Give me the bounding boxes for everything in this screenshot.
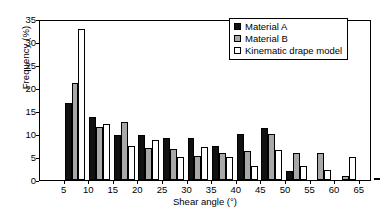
x-tick-label: 40 [224, 185, 248, 195]
bar [114, 135, 121, 180]
bar [163, 138, 170, 180]
bar [128, 146, 135, 180]
bar [349, 157, 356, 180]
bar [72, 83, 79, 180]
bar [293, 153, 300, 180]
bar [219, 153, 226, 180]
x-tick-label: 45 [248, 185, 272, 195]
legend-item: Material B [234, 34, 342, 44]
bar [96, 127, 103, 180]
bar [194, 156, 201, 180]
legend-label: Material A [245, 22, 287, 32]
x-tick-label: 15 [101, 185, 125, 195]
bar [65, 103, 72, 180]
bar [170, 149, 177, 180]
x-axis-label: Shear angle (°) [39, 196, 371, 207]
bar [138, 135, 145, 180]
bar [268, 134, 275, 180]
x-tick-label: 10 [76, 185, 100, 195]
bar [78, 29, 85, 180]
x-tick-label: 55 [298, 185, 322, 195]
bar [244, 151, 251, 180]
bar [286, 171, 293, 180]
bar [275, 150, 282, 180]
bar [212, 146, 219, 180]
legend-item: Kinematic drape model [234, 46, 342, 56]
x-tick-label: 35 [199, 185, 223, 195]
bar [237, 134, 244, 180]
bar [152, 140, 159, 180]
x-tick-label: 5 [52, 185, 76, 195]
bar [342, 176, 349, 180]
x-tick-label: 65 [347, 185, 371, 195]
legend: Material AMaterial BKinematic drape mode… [229, 18, 348, 60]
bar [103, 124, 110, 180]
legend-item: Material A [234, 22, 342, 32]
bar [201, 147, 208, 180]
x-tick-label: 20 [125, 185, 149, 195]
x-tick-label: 50 [273, 185, 297, 195]
bar [324, 170, 331, 180]
bar [145, 148, 152, 180]
bar [226, 157, 233, 180]
bar [300, 166, 307, 180]
legend-swatch-icon [234, 47, 241, 54]
bar [121, 122, 128, 180]
bar [251, 166, 258, 180]
bar [261, 128, 268, 180]
bar [374, 178, 380, 180]
bar [188, 138, 195, 180]
bar [317, 153, 324, 180]
legend-swatch-icon [234, 23, 241, 30]
x-tick-label: 60 [322, 185, 346, 195]
legend-swatch-icon [234, 35, 241, 42]
bar [177, 157, 184, 180]
legend-label: Material B [245, 34, 288, 44]
x-tick-label: 30 [175, 185, 199, 195]
x-tick-label: 25 [150, 185, 174, 195]
legend-label: Kinematic drape model [245, 46, 342, 56]
bar [89, 117, 96, 180]
